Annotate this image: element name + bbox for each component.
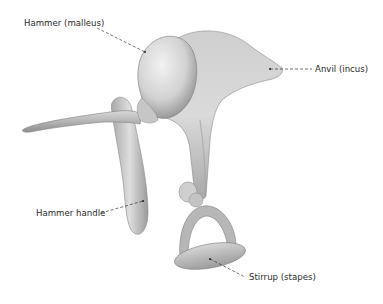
label-hammer-handle: Hammer handle — [36, 209, 105, 218]
ossicles-illustration — [0, 0, 383, 304]
leader-hammer — [97, 28, 145, 52]
stirrup-shape — [172, 182, 247, 274]
label-anvil: Anvil (incus) — [315, 65, 368, 74]
label-stirrup: Stirrup (stapes) — [249, 273, 316, 282]
label-hammer: Hammer (malleus) — [24, 19, 104, 28]
ossicles-diagram: Hammer (malleus) Anvil (incus) Hammer ha… — [0, 0, 383, 304]
